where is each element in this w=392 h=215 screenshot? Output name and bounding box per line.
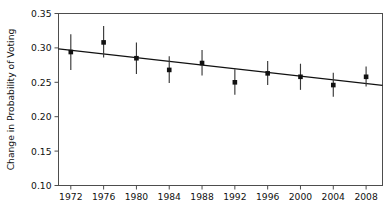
x-tick-label: 1988 [190, 191, 214, 202]
data-point-marker [298, 74, 303, 79]
data-point-marker [134, 56, 139, 61]
x-tick-label: 2004 [322, 191, 346, 202]
y-tick-label: 0.30 [31, 42, 52, 53]
data-point-marker [364, 74, 369, 79]
x-tick-label: 1972 [59, 191, 82, 202]
x-tick-label: 2000 [289, 191, 313, 202]
x-tick-label: 1980 [125, 191, 149, 202]
x-tick-label: 1984 [158, 191, 182, 202]
data-point-marker [265, 71, 270, 76]
x-tick-label: 1992 [223, 191, 246, 202]
data-point-marker [233, 80, 238, 85]
chart-figure: 0.100.150.200.250.300.351972197619801984… [0, 0, 392, 215]
fit-line [59, 49, 383, 85]
y-tick-label: 0.25 [31, 77, 52, 88]
scatter-plot-svg: 0.100.150.200.250.300.351972197619801984… [0, 0, 392, 215]
data-point-marker [167, 68, 172, 73]
top-edge-clip [0, 0, 392, 6]
data-point-marker [200, 61, 205, 66]
data-point-marker [101, 40, 106, 45]
data-point-marker [331, 83, 336, 88]
y-tick-label: 0.35 [31, 8, 52, 19]
y-tick-label: 0.15 [31, 146, 52, 157]
plot-frame [59, 14, 383, 186]
x-tick-label: 1976 [92, 191, 116, 202]
y-tick-label: 0.10 [31, 180, 52, 191]
x-tick-label: 2008 [354, 191, 378, 202]
y-axis-title: Change in Probability of Voting [5, 29, 16, 171]
x-tick-label: 1996 [256, 191, 280, 202]
y-tick-label: 0.20 [31, 111, 52, 122]
data-points-group [69, 26, 369, 97]
data-point-marker [69, 50, 74, 55]
